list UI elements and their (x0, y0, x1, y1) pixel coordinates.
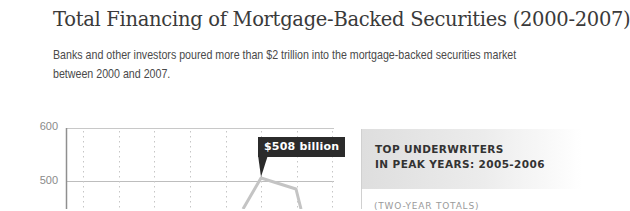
panel-note: (TWO-YEAR TOTALS) (374, 201, 479, 211)
panel-title-line1: TOP UNDERWRITERS (375, 142, 545, 157)
top-underwriters-panel: TOP UNDERWRITERS IN PEAK YEARS: 2005-200… (361, 129, 629, 209)
line-chart: 600 500 $508 billion (0, 0, 345, 209)
y-tick-600: 600 (30, 120, 58, 132)
callout-pointer (258, 155, 268, 177)
data-line (243, 178, 301, 209)
panel-divider (361, 189, 362, 209)
panel-header: TOP UNDERWRITERS IN PEAK YEARS: 2005-200… (361, 129, 582, 189)
peak-callout: $508 billion (258, 137, 345, 157)
y-tick-500: 500 (30, 174, 58, 186)
panel-title-line2: IN PEAK YEARS: 2005-2006 (375, 157, 545, 172)
panel-title: TOP UNDERWRITERS IN PEAK YEARS: 2005-200… (375, 142, 545, 172)
